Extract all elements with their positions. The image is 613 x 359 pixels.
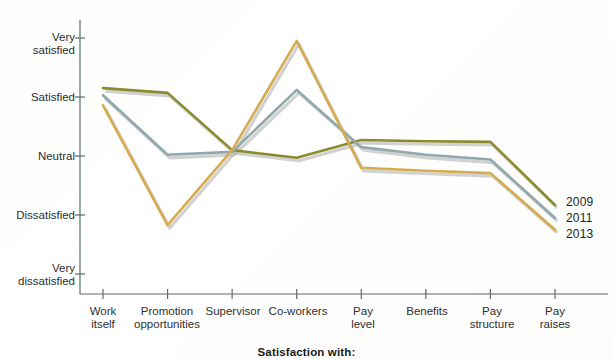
xtick-pay-level-line1: Pay	[333, 305, 393, 318]
xtick-pay-raises-line2: raises	[525, 318, 585, 331]
ytick-very-satisfied-line2: satisfied	[5, 44, 75, 57]
xtick-pay-raises-line1: Pay	[525, 305, 585, 318]
ytick-neutral-line1: Neutral	[5, 150, 75, 163]
ytick-satisfied-line1: Satisfied	[5, 91, 75, 104]
axes	[75, 20, 608, 299]
ytick-dissatisfied-line1: Dissatisfied	[5, 209, 75, 222]
ytick-label-neutral: Neutral	[5, 150, 75, 163]
ytick-very-satisfied-line1: Very	[5, 31, 75, 44]
series-shadow-2011	[105, 93, 557, 221]
xtick-label-co-workers: Co-workers	[260, 305, 336, 318]
series-shadow-2013	[105, 44, 557, 233]
ytick-label-very-dissatisfied: Very dissatisfied	[5, 262, 75, 287]
ytick-very-dissatisfied-line2: dissatisfied	[5, 275, 75, 288]
series-lines	[103, 41, 562, 234]
ytick-label-very-satisfied: Very satisfied	[5, 31, 75, 56]
satisfaction-line-chart: Very satisfied Satisfied Neutral Dissati…	[0, 0, 613, 359]
xtick-pay-structure-line1: Pay	[450, 305, 534, 318]
xtick-pay-level-line2: level	[333, 318, 393, 331]
series-label-2011: 2011	[566, 212, 593, 225]
xtick-label-pay-structure: Pay structure	[450, 305, 534, 331]
xtick-coworkers-line1: Co-workers	[260, 305, 336, 318]
series-line-2013	[103, 41, 555, 230]
xtick-promotion-line2: opportunities	[122, 318, 212, 331]
xtick-label-pay-raises: Pay raises	[525, 305, 585, 331]
x-axis-title: Satisfaction with:	[0, 346, 613, 358]
xtick-label-pay-level: Pay level	[333, 305, 393, 331]
ytick-label-satisfied: Satisfied	[5, 91, 75, 104]
series-label-2009: 2009	[566, 196, 594, 209]
ytick-very-dissatisfied-line1: Very	[5, 262, 75, 275]
series-label-2013: 2013	[566, 228, 594, 241]
ytick-label-dissatisfied: Dissatisfied	[5, 209, 75, 222]
xtick-pay-structure-line2: structure	[450, 318, 534, 331]
